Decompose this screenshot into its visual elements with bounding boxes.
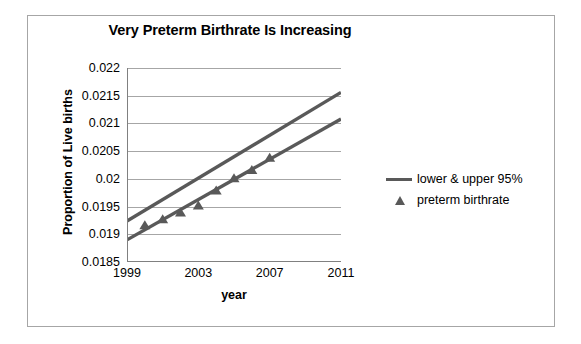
preterm-birthrate-markers	[139, 153, 275, 230]
legend-label: preterm birthrate	[417, 193, 509, 207]
legend-triangle-swatch	[385, 192, 413, 208]
chart-figure: Very Preterm Birthrate Is Increasing Pro…	[0, 0, 581, 344]
gridlines	[127, 69, 341, 263]
chart-legend: lower & upper 95%preterm birthrate	[385, 168, 545, 210]
plot-svg	[127, 68, 341, 262]
data-point-marker	[139, 220, 150, 229]
confidence-interval-lines	[127, 92, 341, 239]
x-tick-label: 2011	[311, 266, 371, 280]
axis-lines	[127, 68, 341, 262]
legend-entry: preterm birthrate	[385, 189, 545, 210]
legend-triangle-icon	[395, 196, 405, 205]
x-tick-label: 2007	[240, 266, 300, 280]
legend-entry: lower & upper 95%	[385, 168, 545, 189]
plot-area	[127, 68, 341, 262]
legend-line-icon	[386, 178, 412, 181]
legend-line-swatch	[385, 171, 413, 187]
x-tick-label: 1999	[97, 266, 157, 280]
legend-label: lower & upper 95%	[417, 172, 523, 186]
x-tick-label: 2003	[168, 266, 228, 280]
series-line-upper-95-	[127, 92, 341, 221]
